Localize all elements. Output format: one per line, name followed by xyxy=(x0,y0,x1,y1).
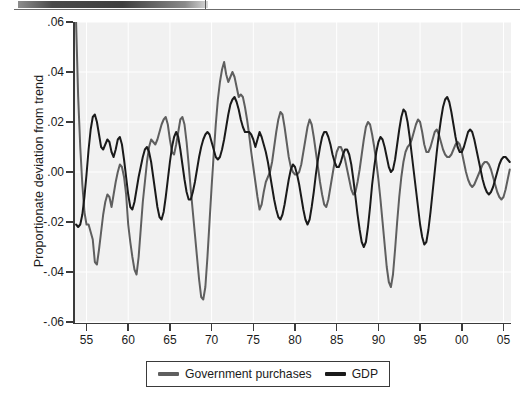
legend-item: GDP xyxy=(325,367,378,381)
legend-swatch-gdp xyxy=(325,372,346,376)
y-axis-tick xyxy=(66,171,73,173)
y-axis-tick-label: -.04 xyxy=(28,265,64,279)
y-axis-tick-label: -.02 xyxy=(28,215,64,229)
x-axis-tick-label: 80 xyxy=(278,333,312,347)
x-axis-tick xyxy=(336,324,338,331)
x-axis-tick xyxy=(294,324,296,331)
y-axis-tick-label-text: -.06 xyxy=(32,315,64,329)
legend-item-label: GDP xyxy=(352,367,378,381)
y-axis-tick-label-text: -.04 xyxy=(32,265,64,279)
y-axis-line xyxy=(73,22,75,323)
y-axis-tick-label: .00 xyxy=(28,165,64,179)
legend-item-label: Government purchases xyxy=(185,367,312,381)
x-axis-tick xyxy=(253,324,255,331)
x-axis-tick-label: 55 xyxy=(70,333,104,347)
x-axis-tick-label: 85 xyxy=(320,333,354,347)
y-axis-tick-label: -.06 xyxy=(28,315,64,329)
y-axis-tick xyxy=(66,71,73,73)
legend-item: Government purchases xyxy=(158,367,312,381)
x-axis-tick-label: 95 xyxy=(403,333,437,347)
y-axis-tick-label: .04 xyxy=(28,65,64,79)
x-axis-tick xyxy=(211,324,213,331)
x-axis-tick-label: 75 xyxy=(236,333,270,347)
y-axis-tick-label-text: -.02 xyxy=(32,215,64,229)
chart-figure: Proportionate deviation from trend .06.0… xyxy=(0,14,520,399)
x-axis-tick xyxy=(461,324,463,331)
y-axis-tick-label: .02 xyxy=(28,115,64,129)
y-axis-tick-label-text: .06 xyxy=(32,15,64,29)
scan-rule-line xyxy=(14,9,520,10)
x-axis-tick xyxy=(86,324,88,331)
y-axis-tick xyxy=(66,321,73,323)
x-axis-tick xyxy=(378,324,380,331)
y-axis-tick xyxy=(66,271,73,273)
scan-edge-artifact xyxy=(0,0,520,14)
y-axis-tick-label: .06 xyxy=(28,15,64,29)
y-axis-tick xyxy=(66,121,73,123)
x-axis-tick-label: 00 xyxy=(445,333,479,347)
y-axis-tick xyxy=(66,221,73,223)
x-axis-line xyxy=(73,323,511,325)
y-axis-tick xyxy=(66,21,73,23)
scan-smudge xyxy=(18,1,208,8)
x-axis-tick-label: 90 xyxy=(361,333,395,347)
plot-area xyxy=(74,22,511,322)
x-axis-tick xyxy=(127,324,129,331)
x-axis-tick-label: 70 xyxy=(195,333,229,347)
x-axis-tick xyxy=(419,324,421,331)
y-axis-tick-label-text: .04 xyxy=(32,65,64,79)
y-axis-tick-label-text: .02 xyxy=(32,115,64,129)
chart-legend: Government purchasesGDP xyxy=(146,361,390,387)
x-axis-tick-label: 60 xyxy=(111,333,145,347)
y-axis-tick-label-text: .00 xyxy=(32,165,64,179)
scan-tick-artifact xyxy=(205,0,206,9)
x-axis-tick-label: 65 xyxy=(153,333,187,347)
x-axis-tick xyxy=(503,324,505,331)
legend-swatch-government-purchases xyxy=(158,372,179,376)
x-axis-tick xyxy=(169,324,171,331)
x-axis-tick-label: 05 xyxy=(486,333,520,347)
series-canvas xyxy=(74,22,511,322)
